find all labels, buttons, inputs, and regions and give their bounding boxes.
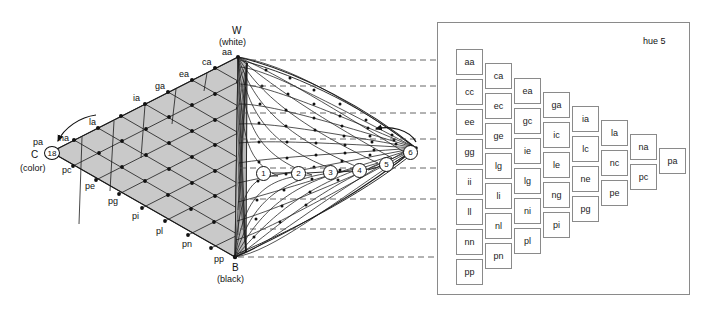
color-chip-ne[interactable]: ne <box>572 166 599 192</box>
correspondence-dashed-lines <box>238 60 452 257</box>
color-chip-nc[interactable]: nc <box>601 150 628 176</box>
apex-white-code: aa <box>222 48 232 57</box>
color-plane-grid <box>49 55 240 259</box>
color-chip-ga[interactable]: ga <box>543 92 570 118</box>
color-chip-ii[interactable]: ii <box>456 169 483 195</box>
color-chip-pp[interactable]: pp <box>456 259 483 285</box>
edge-label-pc: pc <box>62 166 72 175</box>
edge-label-ia: ia <box>133 94 140 103</box>
edge-label-pg: pg <box>108 197 118 206</box>
chroma-circle-6: 6 <box>403 145 418 160</box>
edge-label-ea: ea <box>179 70 189 79</box>
chroma-circle-2: 2 <box>291 166 306 181</box>
color-chip-ic[interactable]: ic <box>543 122 570 148</box>
color-chip-cc[interactable]: cc <box>456 79 483 105</box>
edge-label-pe: pe <box>85 182 95 191</box>
apex-black-code: pp <box>214 255 224 264</box>
color-chip-le[interactable]: le <box>543 152 570 178</box>
apex-black-letter: B <box>232 263 239 273</box>
edge-label-pi: pi <box>132 212 139 221</box>
color-chip-ie[interactable]: ie <box>514 138 541 164</box>
edge-label-pn: pn <box>182 240 192 249</box>
color-chip-ni[interactable]: ni <box>514 198 541 224</box>
edge-label-la: la <box>89 118 96 127</box>
edge-label-na: na <box>59 134 69 143</box>
color-chip-nl[interactable]: nl <box>485 213 512 239</box>
apex-color-letter: C <box>31 150 38 160</box>
apex-color-paren: (color) <box>20 164 46 173</box>
chroma-circle-18: 18 <box>44 146 60 160</box>
color-chip-nn[interactable]: nn <box>456 229 483 255</box>
color-chip-lc[interactable]: lc <box>572 136 599 162</box>
chroma-circle-3: 3 <box>323 165 338 180</box>
color-chip-ge[interactable]: ge <box>485 123 512 149</box>
figure-canvas: W (white) aa pp B (black) pa C (color) 1… <box>0 0 707 311</box>
color-chip-pn[interactable]: pn <box>485 243 512 269</box>
apex-white-letter: W <box>232 26 241 36</box>
color-chip-pc[interactable]: pc <box>630 164 657 190</box>
color-chip-ia[interactable]: ia <box>572 106 599 132</box>
edge-label-pl: pl <box>156 227 163 236</box>
chroma-circle-1: 1 <box>256 166 271 181</box>
color-chip-ec[interactable]: ec <box>485 93 512 119</box>
hue-title: hue 5 <box>643 36 666 46</box>
color-chip-lg[interactable]: lg <box>514 168 541 194</box>
color-chip-aa[interactable]: aa <box>456 49 483 75</box>
chroma-circle-5: 5 <box>379 157 394 172</box>
color-chip-ea[interactable]: ea <box>514 78 541 104</box>
color-chip-na[interactable]: na <box>630 134 657 160</box>
color-chip-pi[interactable]: pi <box>543 212 570 238</box>
color-chip-la[interactable]: la <box>601 120 628 146</box>
color-chip-pa[interactable]: pa <box>659 148 686 174</box>
color-chip-ca[interactable]: ca <box>485 63 512 89</box>
apex-black-paren: (black) <box>217 275 244 284</box>
edge-label-ga: ga <box>155 82 165 91</box>
color-chip-ll[interactable]: ll <box>456 199 483 225</box>
color-chip-pl[interactable]: pl <box>514 228 541 254</box>
color-chip-gg[interactable]: gg <box>456 139 483 165</box>
color-chip-lg[interactable]: lg <box>485 153 512 179</box>
apex-color-code: pa <box>33 138 43 147</box>
color-chip-ng[interactable]: ng <box>543 182 570 208</box>
edge-label-ca: ca <box>202 58 212 67</box>
color-chip-li[interactable]: li <box>485 183 512 209</box>
chroma-circle-4: 4 <box>352 163 367 178</box>
color-chip-gc[interactable]: gc <box>514 108 541 134</box>
color-chip-pe[interactable]: pe <box>601 180 628 206</box>
apex-white-paren: (white) <box>219 38 246 47</box>
color-chip-ee[interactable]: ee <box>456 109 483 135</box>
color-chip-pg[interactable]: pg <box>572 196 599 222</box>
